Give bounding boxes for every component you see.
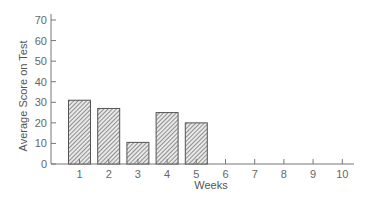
- x-tick-label: 4: [164, 168, 170, 180]
- y-tick: 60: [35, 35, 56, 47]
- x-tick: 8: [281, 159, 287, 180]
- y-tick: 10: [35, 137, 56, 149]
- x-tick: 9: [310, 159, 316, 180]
- y-tick: 30: [35, 96, 56, 108]
- x-tick-label: 9: [310, 168, 316, 180]
- bars: [69, 100, 208, 164]
- x-tick: 6: [222, 159, 228, 180]
- bar-week-5: [185, 123, 207, 164]
- x-tick: 7: [252, 159, 258, 180]
- y-tick-label: 30: [35, 96, 47, 108]
- bar-week-4: [156, 113, 178, 164]
- y-tick-label: 50: [35, 55, 47, 67]
- bar-week-1: [69, 100, 91, 164]
- x-tick-label: 7: [252, 168, 258, 180]
- x-tick: 10: [336, 159, 348, 180]
- x-tick-label: 2: [106, 168, 112, 180]
- bar-chart: 010203040506070 12345678910 Average Scor…: [0, 0, 373, 201]
- y-tick-label: 0: [41, 158, 47, 170]
- y-tick-label: 60: [35, 35, 47, 47]
- y-axis: 010203040506070: [35, 14, 56, 170]
- y-tick: 70: [35, 14, 56, 26]
- x-tick-label: 8: [281, 168, 287, 180]
- x-tick-label: 10: [336, 168, 348, 180]
- y-tick-label: 70: [35, 14, 47, 26]
- y-tick-label: 40: [35, 76, 47, 88]
- y-tick: 20: [35, 117, 56, 129]
- y-axis-title: Average Score on Test: [17, 41, 29, 152]
- x-tick-label: 1: [76, 168, 82, 180]
- y-tick: 50: [35, 55, 56, 67]
- y-tick-label: 20: [35, 117, 47, 129]
- x-tick-label: 3: [135, 168, 141, 180]
- y-tick: 40: [35, 76, 56, 88]
- y-tick-label: 10: [35, 137, 47, 149]
- x-axis-title: Weeks: [194, 179, 228, 191]
- bar-week-2: [98, 108, 120, 164]
